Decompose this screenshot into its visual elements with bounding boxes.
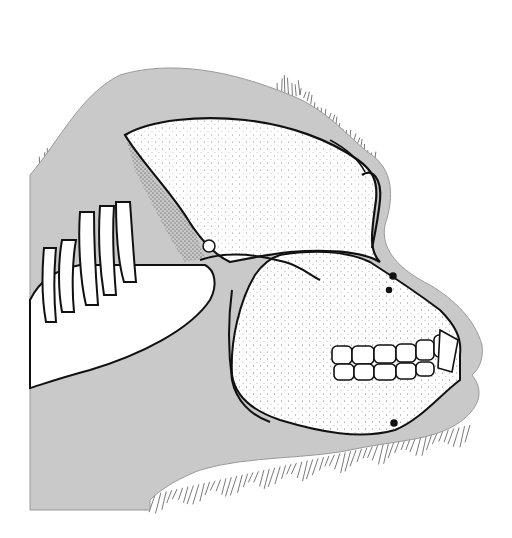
illustration-canvas: Lateral view of great ape skull in situ [0,0,512,538]
tooth [396,344,416,362]
hair-strand [162,491,166,509]
tooth [354,364,374,380]
tooth [416,340,434,360]
hair-strand [237,475,242,493]
hair-strand [311,95,312,104]
hair-strand [243,474,247,487]
hair-strand [304,92,307,98]
foramen [203,240,215,252]
hair-strand [307,92,309,101]
hair-strand [319,457,323,470]
hair-strand [388,442,394,458]
hair-strand [314,102,315,107]
hair-strand [172,489,177,499]
hair-strand [260,470,264,486]
hair-strand [368,446,373,457]
hair-strand [384,443,389,464]
hair-strand [350,450,356,466]
hair-strand [448,429,454,444]
hair-strand [363,448,367,459]
tooth [374,364,396,380]
foramen [391,420,397,426]
hair-strand [183,487,188,503]
hair-strand [372,445,378,460]
hair-strand [300,88,301,95]
tooth [396,363,416,379]
hair-strand [297,462,302,478]
hair-strand [205,482,210,495]
hair-strand [200,483,204,501]
hair-strand [275,467,280,484]
hair-strand [453,427,459,446]
hair-strand [465,425,470,442]
hair-strand [193,484,199,504]
hair-strand [357,449,361,462]
hair-strand [295,84,296,96]
vertebra-spine [43,248,56,322]
tooth [374,345,396,363]
hair-strand [329,455,334,466]
hair-strand [345,451,351,471]
tooth [334,364,354,380]
hair-strand [460,426,465,447]
tooth [416,362,434,376]
hair-strand [282,465,286,479]
vertebra-spine [59,240,76,312]
hair-strand [335,453,340,469]
hair-strand [222,478,226,494]
hair-strand [291,463,296,474]
hair-strand [444,430,448,442]
hair-strand [378,444,383,465]
hair-strand [325,456,329,467]
hair-strand [306,459,312,479]
vertebra-spine [99,206,116,295]
hair-strand [312,458,318,475]
hair-strand [167,490,172,503]
hair-strand [341,452,346,473]
tooth [352,346,374,364]
hair-strand [187,486,193,505]
hair-strand [210,481,215,491]
hair-strand [178,488,182,500]
hair-strand [155,493,160,514]
skull-illustration [0,0,512,538]
hair-strand [254,471,259,482]
hair-strand [216,480,220,492]
foramen [387,288,392,293]
hair-strand [287,464,291,474]
hair-strand [298,80,300,95]
hair-strand [292,83,293,97]
foramen [390,273,396,279]
tooth [332,346,352,364]
hair-strand [248,472,253,482]
